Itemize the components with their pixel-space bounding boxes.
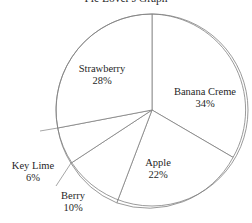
slice-label-key-lime-name: Key Lime [12, 160, 54, 171]
slice-label-banana-creme-name: Banana Creme [174, 86, 236, 97]
slice-label-key-lime-percent: 6% [2, 172, 64, 184]
slice-label-strawberry: Strawberry 28% [60, 63, 144, 86]
slice-label-strawberry-name: Strawberry [79, 63, 126, 74]
pie-chart-graphic [0, 0, 252, 223]
pie-chart-figure: Pie Lover's Graph Strawberry 28% Banana … [0, 0, 252, 223]
slice-label-berry: Berry 10% [44, 190, 102, 213]
slice-label-berry-percent: 10% [44, 202, 102, 214]
slice-label-apple-percent: 22% [127, 169, 189, 181]
slice-label-berry-name: Berry [61, 190, 85, 201]
slice-label-banana-creme-percent: 34% [160, 98, 250, 110]
slice-label-apple: Apple 22% [127, 157, 189, 180]
slice-label-apple-name: Apple [145, 157, 171, 168]
slice-label-key-lime: Key Lime 6% [2, 160, 64, 183]
slice-label-banana-creme: Banana Creme 34% [160, 86, 250, 109]
slice-label-strawberry-percent: 28% [60, 75, 144, 87]
leader-line-key-lime [40, 128, 58, 131]
